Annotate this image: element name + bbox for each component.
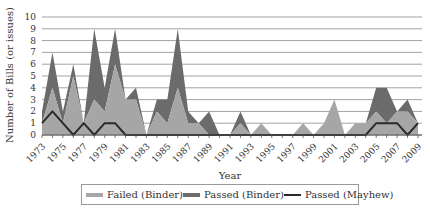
y-tick-label: 8	[30, 36, 36, 46]
x-tick-label: 1997	[275, 141, 298, 164]
x-tick-label: 1985	[149, 141, 172, 164]
x-tick-label: 1991	[212, 141, 235, 164]
legend-item-passed-binder: Passed (Binder)	[183, 189, 284, 200]
y-tick-label: 4	[30, 83, 36, 93]
legend-swatch-passed-binder	[183, 193, 200, 197]
y-axis-title: Number of Bills (or issues)	[4, 7, 15, 143]
x-tick-label: 1993	[233, 141, 256, 164]
y-tick-label: 5	[30, 71, 36, 81]
y-tick-label: 7	[30, 47, 36, 57]
x-axis: 1973197519771979198119831985198719891991…	[24, 135, 423, 165]
x-tick-label: 1989	[191, 141, 214, 164]
chart-canvas: 1973197519771979198119831985198719891991…	[0, 0, 430, 215]
legend: Failed (Binder) Passed (Binder) Passed (…	[81, 184, 359, 205]
x-tick-label: 1973	[24, 141, 47, 164]
x-tick-label: 1987	[170, 141, 193, 164]
y-tick-label: 6	[30, 59, 36, 69]
y-tick-label: 0	[30, 130, 36, 140]
x-tick-label: 2005	[358, 141, 381, 164]
x-tick-label: 1999	[296, 141, 319, 164]
legend-label: Passed (Binder)	[204, 189, 284, 200]
x-tick-label: 1977	[66, 141, 89, 164]
y-tick-label: 2	[30, 106, 36, 116]
y-tick-label: 1	[30, 118, 36, 128]
y-tick-label: 9	[30, 24, 36, 34]
legend-swatch-failed-binder	[86, 193, 103, 197]
x-tick-label: 1983	[129, 141, 152, 164]
x-tick-label: 1979	[87, 141, 110, 164]
y-axis: 012345678910	[25, 12, 37, 140]
y-tick-label: 3	[30, 95, 36, 105]
x-tick-label: 1975	[45, 141, 68, 164]
x-axis-title: Year	[218, 170, 242, 181]
legend-item-failed-binder: Failed (Binder)	[86, 189, 183, 200]
y-tick-label: 10	[25, 12, 37, 22]
legend-label: Passed (Mayhew)	[305, 189, 394, 200]
legend-swatch-passed-mayhew	[284, 194, 301, 196]
x-tick-label: 1981	[108, 141, 131, 164]
x-tick-label: 2003	[337, 141, 360, 164]
x-tick-label: 2009	[400, 141, 423, 164]
x-tick-label: 1995	[254, 141, 277, 164]
legend-label: Failed (Binder)	[107, 189, 183, 200]
x-tick-label: 2007	[379, 141, 402, 164]
x-tick-label: 2001	[317, 141, 340, 164]
area-series	[42, 29, 418, 135]
legend-item-passed-mayhew: Passed (Mayhew)	[284, 189, 394, 200]
